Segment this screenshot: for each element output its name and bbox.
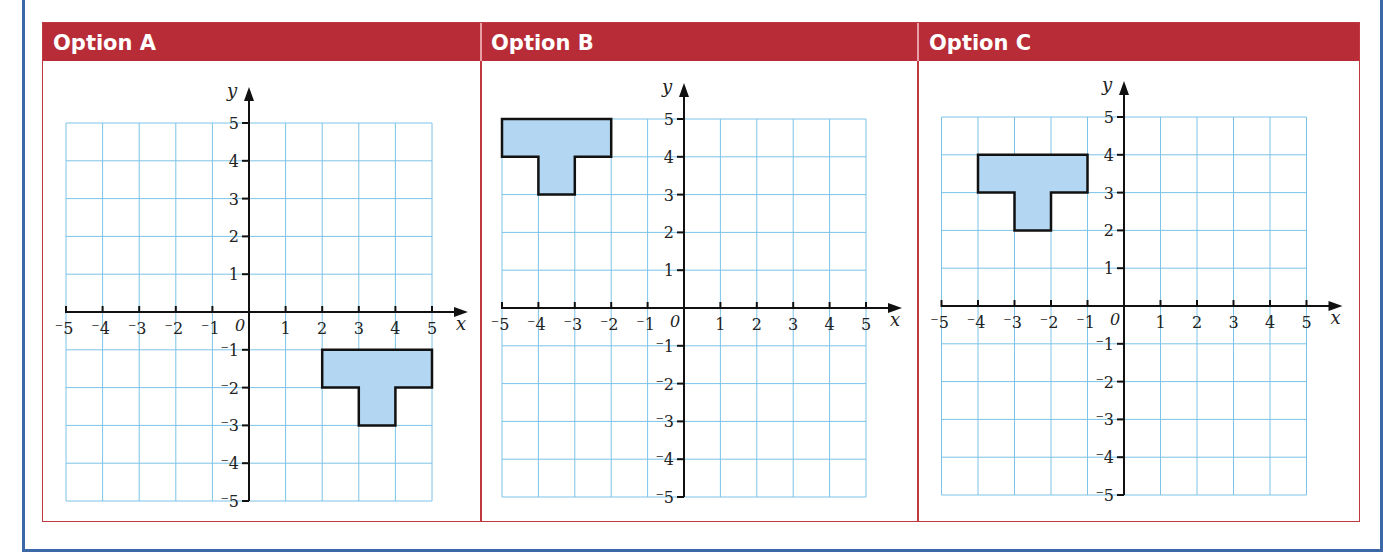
- x-tick-label: 5: [1301, 313, 1311, 332]
- y-tick-label: 2: [229, 227, 239, 246]
- x-tick-label: ⁻3: [1003, 313, 1022, 332]
- x-tick-label: ⁻2: [164, 319, 183, 338]
- x-tick-label: ⁻2: [1040, 313, 1059, 332]
- x-tick-label: 4: [1265, 313, 1275, 332]
- y-axis-label: y: [226, 80, 238, 101]
- y-tick-label: 3: [229, 190, 239, 209]
- y-tick-label: 1: [229, 265, 239, 284]
- x-tick-label: ⁻2: [600, 315, 619, 334]
- y-tick-label: ⁻2: [1095, 373, 1114, 392]
- x-tick-label: 3: [354, 319, 364, 338]
- y-tick-label: ⁻3: [220, 416, 239, 435]
- y-tick-label: 4: [1104, 146, 1114, 165]
- t-shape: [502, 119, 611, 195]
- x-tick-label: ⁻3: [128, 319, 147, 338]
- x-tick-label: ⁻5: [930, 313, 949, 332]
- y-tick-label: ⁻4: [655, 450, 674, 469]
- x-tick-label: 2: [317, 319, 327, 338]
- x-axis-label: x: [456, 313, 466, 334]
- origin-label: 0: [1110, 310, 1120, 329]
- y-tick-label: 5: [664, 110, 674, 129]
- y-tick-label: ⁻1: [1095, 335, 1114, 354]
- origin-label: 0: [235, 316, 245, 335]
- x-tick-label: ⁻1: [1076, 313, 1095, 332]
- y-tick-label: ⁻3: [1095, 410, 1114, 429]
- y-tick-label: ⁻5: [655, 488, 674, 507]
- x-tick-label: 2: [752, 315, 762, 334]
- graph-option-c: ⁻5⁻4⁻3⁻2⁻11234554321⁻1⁻2⁻3⁻4⁻50xy: [930, 74, 1342, 505]
- x-tick-label: 1: [715, 315, 725, 334]
- x-axis-label: x: [1331, 307, 1341, 328]
- x-tick-label: ⁻4: [91, 319, 110, 338]
- x-tick-label: ⁻4: [967, 313, 986, 332]
- x-tick-label: 5: [427, 319, 437, 338]
- y-axis-label: y: [1101, 74, 1113, 95]
- y-tick-label: ⁻1: [655, 337, 674, 356]
- y-tick-label: ⁻4: [1095, 448, 1114, 467]
- coordinate-grids: ⁻5⁻4⁻3⁻2⁻11234554321⁻1⁻2⁻3⁻4⁻50xy ⁻5⁻4⁻3…: [0, 0, 1397, 560]
- y-tick-label: 5: [1104, 108, 1114, 127]
- x-tick-label: 3: [1228, 313, 1238, 332]
- y-tick-label: 5: [229, 114, 239, 133]
- x-axis-label: x: [890, 309, 900, 330]
- y-axis-arrow-icon: [244, 87, 254, 101]
- t-shape: [322, 350, 432, 426]
- y-tick-label: ⁻4: [220, 454, 239, 473]
- y-tick-label: 3: [1104, 184, 1114, 203]
- x-tick-label: ⁻1: [201, 319, 220, 338]
- graph-option-b: ⁻5⁻4⁻3⁻2⁻11234554321⁻1⁻2⁻3⁻4⁻50xy: [491, 76, 902, 507]
- y-axis-label: y: [661, 76, 673, 97]
- y-tick-label: 1: [1104, 259, 1114, 278]
- x-tick-label: 4: [390, 319, 400, 338]
- y-axis-arrow-icon: [1119, 81, 1129, 95]
- x-tick-label: ⁻3: [563, 315, 582, 334]
- x-tick-label: 4: [825, 315, 835, 334]
- y-tick-label: ⁻5: [220, 492, 239, 511]
- y-tick-label: ⁻1: [220, 341, 239, 360]
- y-tick-label: 4: [664, 148, 674, 167]
- y-axis-arrow-icon: [679, 83, 689, 97]
- y-tick-label: ⁻3: [655, 412, 674, 431]
- origin-label: 0: [670, 312, 680, 331]
- y-tick-label: 3: [664, 186, 674, 205]
- x-tick-label: ⁻1: [636, 315, 655, 334]
- y-tick-label: ⁻2: [220, 379, 239, 398]
- y-tick-label: 1: [664, 261, 674, 280]
- y-tick-label: 2: [1104, 221, 1114, 240]
- graph-option-a: ⁻5⁻4⁻3⁻2⁻11234554321⁻1⁻2⁻3⁻4⁻50xy: [55, 80, 468, 511]
- x-tick-label: ⁻5: [491, 315, 510, 334]
- y-tick-label: 2: [664, 223, 674, 242]
- y-tick-label: 4: [229, 152, 239, 171]
- x-tick-label: 1: [281, 319, 291, 338]
- t-shape: [978, 155, 1088, 231]
- x-tick-label: 2: [1192, 313, 1202, 332]
- x-tick-label: ⁻5: [55, 319, 74, 338]
- y-tick-label: ⁻5: [1095, 486, 1114, 505]
- x-tick-label: 1: [1155, 313, 1165, 332]
- y-tick-label: ⁻2: [655, 375, 674, 394]
- x-tick-label: ⁻4: [527, 315, 546, 334]
- x-tick-label: 5: [861, 315, 871, 334]
- x-tick-label: 3: [788, 315, 798, 334]
